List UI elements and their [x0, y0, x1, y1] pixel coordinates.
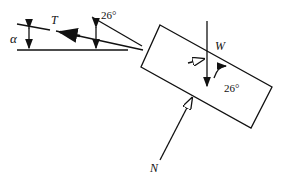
weight-label: W — [215, 39, 226, 53]
tension-label: T — [51, 13, 59, 27]
tension-arrow — [60, 32, 80, 36]
angle-weight-label: 26° — [224, 82, 239, 94]
weight-angle-arrow-left — [188, 59, 204, 63]
weight-angle-arc-arrow — [214, 66, 226, 78]
normal-force-arrow — [160, 98, 192, 160]
alpha-reference-line — [17, 24, 50, 30]
angle-reference-line — [92, 17, 142, 46]
alpha-label: α — [10, 31, 18, 46]
normal-label: N — [149, 161, 159, 175]
angle-top-label: 26° — [101, 9, 116, 21]
free-body-diagram: α T 26° W 26° N — [0, 0, 283, 183]
